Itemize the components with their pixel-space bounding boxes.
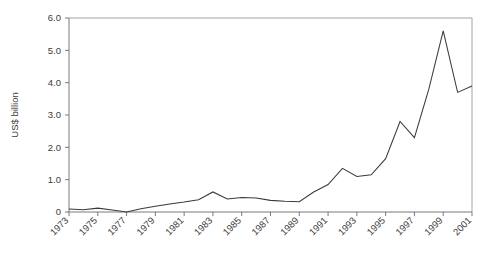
y-tick-label: 3.0 xyxy=(48,109,61,120)
y-tick-label: 5.0 xyxy=(48,45,61,56)
y-tick-label: 6.0 xyxy=(48,12,61,23)
chart-container: 01.02.03.04.05.06.0 19731975197719791981… xyxy=(0,0,497,258)
y-axis-label: US$ billion xyxy=(9,92,20,137)
chart-background xyxy=(0,0,497,258)
y-tick-label: 4.0 xyxy=(48,77,61,88)
y-tick-label: 1.0 xyxy=(48,174,61,185)
y-axis-label-text: US$ billion xyxy=(9,92,20,137)
y-tick-label: 2.0 xyxy=(48,142,61,153)
line-chart: 01.02.03.04.05.06.0 19731975197719791981… xyxy=(0,0,497,258)
